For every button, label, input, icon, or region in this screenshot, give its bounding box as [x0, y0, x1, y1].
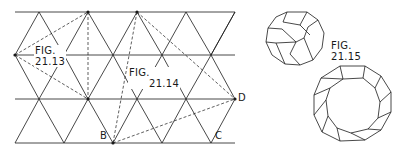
polyhedron-ring [314, 66, 391, 141]
fig-21-14-line1: FIG. [129, 67, 179, 78]
fig-21-14-label: FIG. 21.14 [128, 67, 180, 89]
fig-21-15-line1: FIG. [331, 40, 361, 51]
fig-21-14-line2: 21.14 [129, 78, 179, 89]
polyhedron-small [266, 12, 324, 65]
triangle-grid-diagram [0, 0, 399, 152]
point-d-label: D [238, 93, 246, 103]
fig-21-13-line2: 21.13 [35, 56, 65, 67]
fig-21-13-label: FIG. 21.13 [34, 45, 66, 67]
fig-21-15-line2: 21.15 [331, 51, 361, 62]
fig-21-13-line1: FIG. [35, 45, 65, 56]
fig-21-15-label: FIG. 21.15 [330, 40, 362, 62]
point-c-label: C [215, 131, 222, 141]
dashed-construction-lines [15, 12, 235, 143]
point-b-label: B [100, 131, 107, 141]
